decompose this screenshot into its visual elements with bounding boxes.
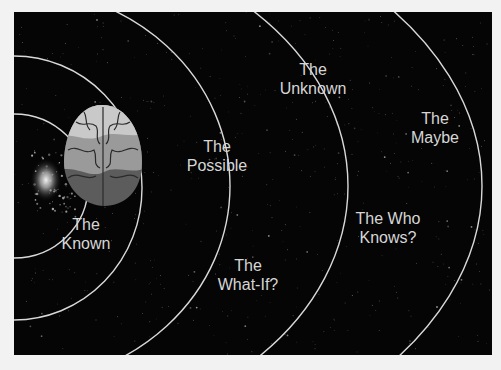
zone-label-possible: The Possible bbox=[187, 137, 247, 175]
zone-label-line1: The bbox=[280, 60, 347, 79]
rings-and-brain bbox=[14, 12, 492, 355]
zone-label-line1: The bbox=[411, 109, 459, 128]
zone-label-maybe: The Maybe bbox=[411, 109, 459, 147]
zone-label-line2: Maybe bbox=[411, 128, 459, 147]
zone-label-line2: Knows? bbox=[356, 228, 421, 247]
zone-label-line1: The bbox=[218, 256, 278, 275]
zone-label-whatif: The What-If? bbox=[218, 256, 278, 294]
zone-label-line2: What-If? bbox=[218, 275, 278, 294]
zone-label-unknown: The Unknown bbox=[280, 60, 347, 98]
zone-label-line2: Possible bbox=[187, 156, 247, 175]
space-background: The Known The Possible The What-If? The … bbox=[14, 12, 492, 355]
zone-label-known: The Known bbox=[62, 215, 111, 253]
galaxy-glow bbox=[30, 158, 62, 202]
zone-label-line1: The bbox=[62, 215, 111, 234]
zone-label-line2: Known bbox=[62, 234, 111, 253]
zone-label-line1: The Who bbox=[356, 209, 421, 228]
zone-label-line2: Unknown bbox=[280, 79, 347, 98]
zone-label-whoknows: The Who Knows? bbox=[356, 209, 421, 247]
zone-label-line1: The bbox=[187, 137, 247, 156]
brain-illustration bbox=[54, 92, 154, 206]
diagram-canvas: The Known The Possible The What-If? The … bbox=[0, 0, 501, 370]
